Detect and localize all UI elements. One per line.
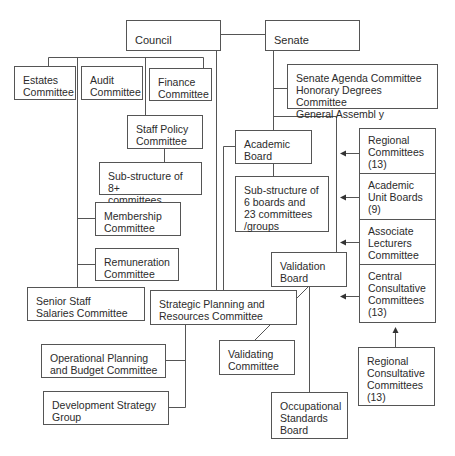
central-consultative-node: Central Consultative Committees (13) <box>359 264 436 323</box>
development-strategy-node: Development Strategy Group <box>43 391 169 425</box>
remuneration-committee-node: Remuneration Committee <box>95 248 179 281</box>
finance-committee-node: Finance Committee <box>149 68 212 101</box>
staff-substructure-node: Sub-structure of 8+ committees <box>99 162 202 195</box>
audit-committee-node: Audit Committee <box>81 66 143 100</box>
occupational-standards-node: Occupational Standards Board <box>271 392 348 439</box>
senior-staff-salaries-node: Senior Staff Salaries Committee <box>27 287 145 321</box>
governance-org-chart: Council Senate Estates Committee Audit C… <box>0 0 455 456</box>
strategic-planning-node: Strategic Planning and Resources Committ… <box>150 290 297 325</box>
regional-committees-node: Regional Committees (13) <box>359 128 436 174</box>
academic-board-node: Academic Board <box>235 130 312 164</box>
staff-policy-committee-node: Staff Policy Committee <box>127 115 203 149</box>
academic-unit-boards-node: Academic Unit Boards (9) <box>359 173 436 220</box>
council-node: Council <box>126 20 221 51</box>
operational-planning-node: Operational Planning and Budget Committe… <box>41 344 166 378</box>
senate-committees-node: Senate Agenda Committee Honorary Degrees… <box>287 64 438 109</box>
validating-committee-node: Validating Committee <box>219 340 295 375</box>
regional-consultative-node: Regional Consultative Committees (13) <box>358 347 435 406</box>
academic-substructure-node: Sub-structure of 6 boards and 23 committ… <box>235 176 329 232</box>
membership-committee-node: Membership Committee <box>95 202 181 236</box>
associate-lecturers-node: Associate Lecturers Committee <box>359 219 436 265</box>
validation-board-node: Validation Board <box>271 252 347 287</box>
estates-committee-node: Estates Committee <box>14 66 76 100</box>
senate-node: Senate <box>265 20 360 51</box>
